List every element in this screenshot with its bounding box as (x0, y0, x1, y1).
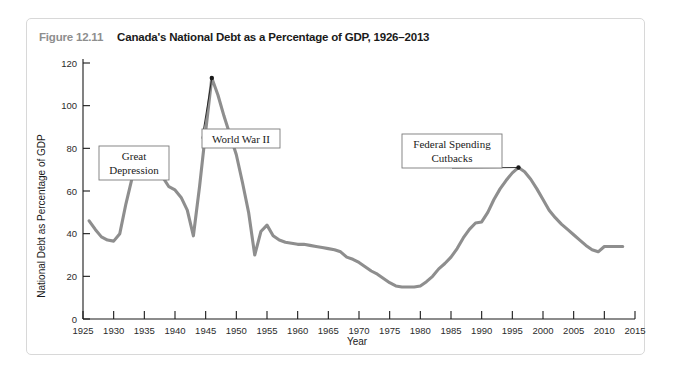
y-tick-label: 40 (66, 228, 77, 239)
y-tick-label: 0 (72, 314, 77, 325)
leader-arrow-head (516, 165, 520, 169)
annotation-label: Great (122, 150, 146, 162)
annotation-label: Depression (109, 164, 159, 176)
x-tick-label: 1960 (287, 325, 308, 336)
x-tick-label: 1965 (318, 325, 339, 336)
leader-arrow-head (210, 76, 214, 80)
annotation-label: World War II (212, 133, 270, 145)
debt-gdp-line-chart: 020406080100120 192519301935194019451950… (27, 51, 646, 351)
annotation-federal-spending-cutbacks: Federal SpendingCutbacks (402, 134, 521, 170)
x-tick-label: 1975 (379, 325, 400, 336)
y-axis-title: National Debt as Percentage of GDP (36, 134, 47, 298)
y-tick-label: 80 (66, 143, 77, 154)
x-axis-title: Year (347, 336, 368, 347)
y-axis: 020406080100120 (61, 58, 90, 325)
y-tick-label: 100 (61, 100, 77, 111)
x-tick-label: 2000 (532, 325, 553, 336)
x-tick-label: 1950 (226, 325, 247, 336)
x-tick-label: 1980 (410, 325, 431, 336)
x-tick-label: 1935 (134, 325, 155, 336)
annotation-label: Federal Spending (413, 138, 491, 150)
debt-gdp-series-line (89, 78, 623, 287)
figure-title: Canada's National Debt as a Percentage o… (117, 31, 429, 43)
figure-number: Figure 12.11 (39, 31, 103, 43)
figure-header: Figure 12.11 Canada's National Debt as a… (39, 31, 429, 43)
y-tick-label: 120 (61, 58, 77, 69)
x-tick-label: 1945 (195, 325, 216, 336)
x-tick-label: 1985 (440, 325, 461, 336)
x-tick-label: 2005 (563, 325, 584, 336)
chart-plot-area: 020406080100120 192519301935194019451950… (27, 51, 646, 351)
annotation-label: Cutbacks (432, 152, 473, 164)
x-tick-label: 1940 (164, 325, 185, 336)
x-tick-label: 1995 (502, 325, 523, 336)
y-tick-label: 60 (66, 186, 77, 197)
x-tick-label: 1990 (471, 325, 492, 336)
x-tick-label: 1955 (256, 325, 277, 336)
x-tick-label: 1970 (348, 325, 369, 336)
y-tick-label: 20 (66, 271, 77, 282)
x-tick-label: 1930 (103, 325, 124, 336)
x-tick-label: 2010 (594, 325, 615, 336)
annotation-great-depression: GreatDepression (99, 146, 169, 180)
figure-frame: Figure 12.11 Canada's National Debt as a… (26, 18, 645, 355)
x-tick-label: 2015 (624, 325, 645, 336)
x-axis: 1925193019351940194519501955196019651970… (72, 311, 645, 336)
x-tick-label: 1925 (72, 325, 93, 336)
chart-annotations: GreatDepressionWorld War IIFederal Spend… (99, 76, 521, 180)
